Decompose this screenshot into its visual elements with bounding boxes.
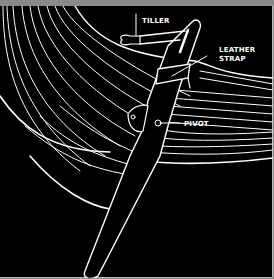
- illustration-frame: TILLER LEATHER STRAP PIVOT: [0, 0, 274, 279]
- leather-strap-label-line1: LEATHER: [219, 46, 255, 54]
- rudder-illustration: TILLER LEATHER STRAP PIVOT: [0, 6, 273, 278]
- pivot-label: PIVOT: [184, 120, 209, 128]
- leather-strap-label-line2: STRAP: [219, 55, 246, 63]
- tiller-label: TILLER: [142, 17, 170, 25]
